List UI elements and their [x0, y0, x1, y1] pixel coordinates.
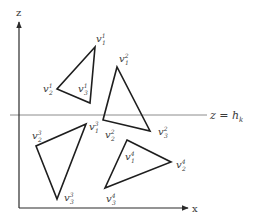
triangles-group: v11v12v13v21v22v23v31v32v33v41v42v43	[32, 32, 186, 206]
vertex-label-v2-3: v32	[32, 129, 42, 143]
plane-label: z = hk	[209, 109, 243, 124]
vertex-label-v3-1: v13	[78, 82, 88, 96]
vertex-label-v2-2: v22	[105, 128, 115, 142]
vertex-label-v2-1: v12	[43, 82, 53, 96]
vertex-label-v1-3: v31	[89, 120, 99, 134]
triangle-2-outline	[103, 67, 150, 131]
triangle-4-outline	[105, 140, 171, 188]
triangle-1: v11v12v13	[43, 32, 106, 103]
triangle-2: v21v22v23	[103, 52, 168, 142]
vertex-label-v1-2: v21	[119, 52, 129, 66]
triangle-3: v31v32v33	[32, 120, 99, 205]
triangle-1-outline	[57, 47, 95, 103]
vertex-label-v2-4: v42	[176, 158, 186, 172]
vertex-label-v1-4: v41	[125, 150, 135, 164]
triangle-4: v41v42v43	[105, 140, 186, 206]
triangle-slicing-diagram: z = hk z x v11v12v13v21v22v23v31v32v33v4…	[0, 0, 257, 222]
x-axis-label: x	[192, 203, 198, 214]
z-axis-label: z	[16, 7, 21, 18]
vertex-label-v3-3: v33	[64, 191, 74, 205]
vertex-label-v1-1: v11	[96, 32, 106, 46]
vertex-label-v3-2: v23	[158, 125, 168, 139]
vertex-label-v3-4: v43	[106, 192, 116, 206]
triangle-3-outline	[36, 124, 86, 199]
